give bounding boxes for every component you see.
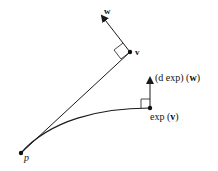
right-angle-marker-v: [114, 43, 130, 59]
label-exp-suffix: ): [175, 111, 178, 123]
label-dexp-suffix: ): [197, 72, 200, 84]
label-dexp-w: (d exp) (w): [155, 72, 200, 84]
point-exp-v: [148, 106, 152, 110]
label-v: v: [135, 47, 140, 57]
geodesic-curve: [21, 108, 150, 153]
label-exp-v: exp (v): [150, 111, 179, 123]
point-p: [19, 151, 23, 155]
point-v: [128, 50, 132, 54]
vector-w-arrow: [102, 16, 130, 52]
label-dexp-prefix: (d exp) (: [155, 72, 190, 84]
diagram-canvas: w v (d exp) (w) exp (v) p: [0, 0, 218, 171]
label-w: w: [104, 6, 111, 16]
label-exp-prefix: exp (: [150, 111, 171, 123]
label-p: p: [23, 152, 29, 163]
